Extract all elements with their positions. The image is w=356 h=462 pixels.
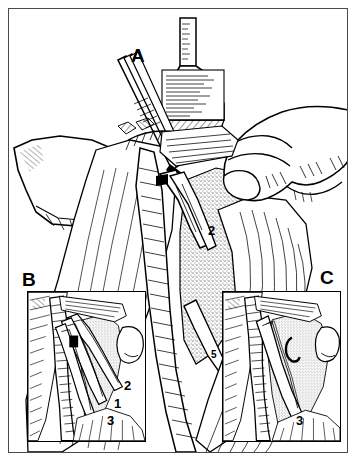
- panel-label-b: B: [22, 270, 36, 289]
- inset-panel-b: [27, 291, 146, 442]
- callout-a-2: 2: [208, 224, 215, 237]
- callout-b-2: 2: [124, 379, 131, 392]
- callout-b-3: 3: [107, 414, 114, 427]
- callout-a-5: 5: [211, 350, 217, 360]
- panel-c-artwork: [223, 292, 340, 441]
- rounded-structure: [117, 327, 143, 363]
- callout-c-3: 3: [296, 414, 303, 427]
- callout-b-1: 1: [114, 397, 121, 410]
- panel-label-c: C: [320, 268, 334, 287]
- panel-b-artwork: [28, 292, 145, 441]
- inset-panel-c: [222, 291, 341, 442]
- panel-label-a: A: [131, 46, 145, 65]
- figure-root: A B C 2 5 2 1 3 3: [0, 0, 356, 462]
- rounded-structure: [315, 327, 339, 362]
